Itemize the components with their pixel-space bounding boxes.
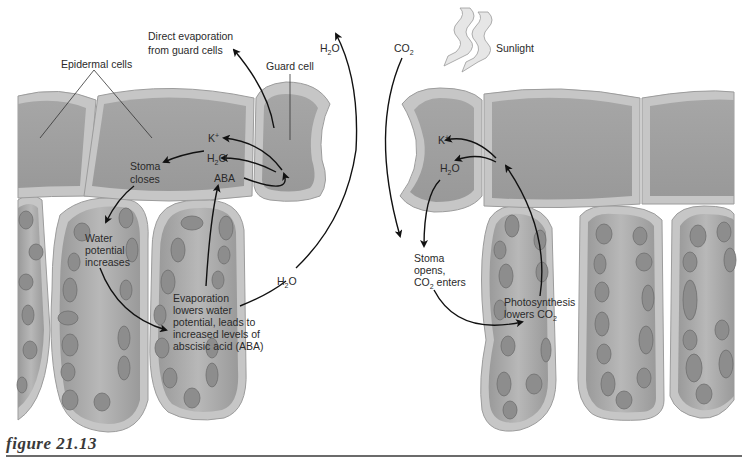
label-stoma-closes-2: closes: [130, 173, 160, 185]
label-h2o-side: H2O: [277, 275, 297, 289]
label-evaporation-1: Evaporation: [173, 292, 229, 304]
label-evaporation-4: increased levels of: [173, 328, 260, 340]
label-sunlight: Sunlight: [496, 42, 534, 54]
label-aba: ABA: [214, 172, 235, 184]
label-stoma-opens-2: opens,: [414, 264, 446, 276]
label-evaporation-2: lowers water: [173, 304, 232, 316]
label-water-potential-2: potential: [85, 244, 125, 256]
label-evaporation-3: potential, leads to: [173, 316, 255, 328]
caption-rule: [6, 455, 742, 457]
epidermal-cell-left-2: [84, 88, 254, 201]
label-co2-top: CO2: [394, 42, 414, 56]
label-stoma-opens-1: Stoma: [414, 252, 445, 264]
label-guard-cell: Guard cell: [266, 60, 314, 72]
sunlight-icon: [444, 8, 492, 72]
label-water-potential-3: increases: [85, 256, 130, 268]
label-h2o-top: H2O: [320, 42, 340, 56]
epidermal-cell-right-1: [484, 89, 640, 208]
mesophyll-cell-left-1: [17, 195, 50, 420]
label-stoma-closes-1: Stoma: [130, 160, 161, 172]
guard-cell-right: [400, 88, 482, 212]
label-photosynthesis-1: Photosynthesis: [504, 296, 575, 308]
label-evaporation-5: abscisic acid (ABA): [173, 340, 263, 352]
epidermal-cell-right-2: [642, 91, 734, 204]
label-water-potential-1: Water: [85, 232, 113, 244]
label-epidermal-cells: Epidermal cells: [61, 58, 132, 70]
label-direct-evaporation-1: Direct evaporation: [148, 30, 233, 42]
label-direct-evaporation-2: from guard cells: [148, 44, 223, 56]
stomata-diagram: Epidermal cells Direct evaporation from …: [0, 0, 748, 466]
figure-caption: figure 21.13: [6, 434, 97, 454]
left-panel-stoma-closing: Epidermal cells Direct evaporation from …: [17, 30, 357, 432]
epidermal-cell-left-1: [18, 91, 96, 198]
label-photosynthesis-2: lowers CO2: [504, 308, 557, 322]
mesophyll-cell-right-2: [578, 206, 664, 421]
arrow-co2-enters: [385, 58, 402, 236]
label-stoma-opens-3: CO2 enters: [414, 276, 466, 290]
right-panel-stoma-opening: CO2 Sunlight K+ H2O Stoma opens, CO2 ent…: [385, 8, 736, 431]
mesophyll-cell-right-3: [670, 206, 736, 418]
